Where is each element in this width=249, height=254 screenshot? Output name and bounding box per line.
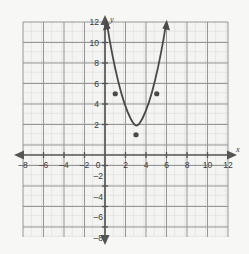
y-tick-12: 12 (90, 17, 100, 27)
point-vertex-3-2 (133, 132, 138, 137)
y-tick--6: –6 (94, 212, 104, 222)
y-tick-4: 4 (94, 99, 99, 109)
x-tick--4-value: 4 (64, 160, 69, 170)
y-tick-10: 10 (90, 38, 100, 48)
graph-figure: y x –8 –6 –4 –2 0 2 4 6 8 10 12 12 10 8 … (0, 0, 249, 254)
x-tick--2: –2 (80, 160, 90, 170)
y-tick--8: –8 (94, 233, 104, 243)
x-tick--2-value: 2 (85, 160, 90, 170)
x-tick--4: –4 (59, 160, 69, 170)
x-tick-6: 6 (164, 160, 169, 170)
x-tick--6: –6 (39, 160, 49, 170)
y-tick--2: –2 (94, 171, 104, 181)
y-axis-label: y (109, 14, 114, 24)
y-tick--4: –4 (94, 192, 104, 202)
point-1-6 (113, 91, 118, 96)
x-tick-10: 10 (203, 160, 213, 170)
x-tick--8: –8 (18, 160, 28, 170)
y-tick--8-value: 8 (98, 233, 103, 243)
y-tick--6-value: 6 (98, 212, 103, 222)
y-tick--4-value: 4 (98, 192, 103, 202)
x-tick-8: 8 (185, 160, 190, 170)
point-5-6 (154, 91, 159, 96)
x-tick-2: 2 (123, 160, 128, 170)
coordinate-plane: y x –8 –6 –4 –2 0 2 4 6 8 10 12 12 10 8 … (0, 0, 249, 254)
y-tick--2-value: 2 (98, 171, 103, 181)
y-tick-6: 6 (94, 79, 99, 89)
y-axis-up-arrow (101, 15, 110, 25)
y-tick-2: 2 (94, 120, 99, 130)
y-tick-8: 8 (94, 58, 99, 68)
x-tick--8-value: 8 (23, 160, 28, 170)
x-tick--6-value: 6 (44, 160, 49, 170)
x-tick-4: 4 (144, 160, 149, 170)
x-tick-12: 12 (223, 160, 233, 170)
x-axis-label: x (235, 144, 240, 154)
origin-label: 0 (96, 160, 101, 170)
